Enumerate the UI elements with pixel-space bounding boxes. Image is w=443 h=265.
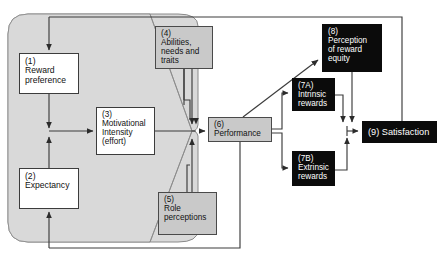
node-6-label: (6) Performance bbox=[214, 121, 261, 139]
node-4-abilities-needs-traits[interactable]: (4) Abilities, needs and traits bbox=[155, 26, 213, 69]
node-7b-extrinsic-rewards[interactable]: (7B) Extrinsic rewards bbox=[292, 151, 335, 186]
node-7b-label: (7B) Extrinsic rewards bbox=[298, 155, 329, 182]
node-1-label: (1) Reward preference bbox=[25, 57, 66, 85]
node-2-label: (2) Expectancy bbox=[25, 172, 69, 191]
node-3-label: (3) Motivational Intensity (effort) bbox=[102, 111, 146, 146]
node-8-perception-of-reward-equity[interactable]: (8) Perception of reward equity bbox=[322, 24, 382, 72]
node-2-expectancy[interactable]: (2) Expectancy bbox=[19, 168, 79, 209]
node-7a-label: (7A) Intrinsic rewards bbox=[298, 82, 327, 109]
node-8-label: (8) Perception of reward equity bbox=[328, 28, 367, 63]
node-5-role-perceptions[interactable]: (5) Role perceptions bbox=[158, 192, 217, 235]
node-3-motivational-intensity[interactable]: (3) Motivational Intensity (effort) bbox=[96, 107, 155, 155]
diagram-canvas: (1) Reward preference (2) Expectancy (3)… bbox=[0, 0, 443, 265]
node-9-label: (9) Satisfaction bbox=[368, 128, 429, 138]
node-6-performance[interactable]: (6) Performance bbox=[208, 117, 272, 142]
node-7a-intrinsic-rewards[interactable]: (7A) Intrinsic rewards bbox=[292, 78, 335, 111]
node-1-reward-preference[interactable]: (1) Reward preference bbox=[19, 53, 79, 94]
node-5-label: (5) Role perceptions bbox=[164, 196, 206, 223]
node-9-satisfaction[interactable]: (9) Satisfaction bbox=[362, 121, 437, 143]
node-4-label: (4) Abilities, needs and traits bbox=[161, 30, 199, 65]
